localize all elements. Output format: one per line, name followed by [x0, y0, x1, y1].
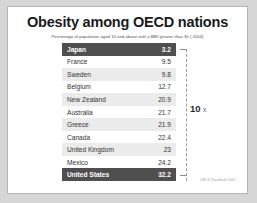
country-value: 21.7	[158, 109, 171, 116]
country-value: 9.8	[162, 71, 171, 78]
table-row: Japan 3.2	[62, 43, 176, 56]
table-row: France 9.5	[62, 56, 176, 69]
table-row: Belgium 12.7	[62, 81, 176, 94]
table-row: Canada 22.4	[62, 131, 176, 144]
country-value: 21.9	[158, 121, 171, 128]
country-label: France	[67, 58, 88, 65]
country-value: 32.2	[158, 171, 171, 178]
table-row: Mexico 24.2	[62, 156, 176, 169]
country-label: Belgium	[67, 83, 91, 90]
country-value: 12.7	[158, 83, 171, 90]
ranking-table: Japan 3.2 France 9.5 Sweden 9.8 Belgium …	[62, 43, 176, 181]
country-label: Sweden	[67, 71, 91, 78]
table-row: Australia 21.7	[62, 106, 176, 119]
country-value: 3.2	[162, 46, 171, 53]
country-value: 22.4	[158, 134, 171, 141]
country-label: Greece	[67, 121, 89, 128]
country-value: 9.5	[162, 58, 171, 65]
chart-subtitle: Percentage of population aged 15 and abo…	[8, 34, 247, 39]
country-label: Australia	[67, 109, 93, 116]
country-value: 20.9	[158, 96, 171, 103]
ratio-unit: x	[203, 106, 206, 113]
table-row: United States 32.2	[62, 168, 176, 181]
table-row: United Kingdom 23	[62, 143, 176, 156]
country-label: United Kingdom	[67, 146, 114, 153]
country-label: United States	[67, 171, 109, 178]
chart-header: Obesity among OECD nations Percentage of…	[8, 7, 247, 39]
country-label: Japan	[67, 46, 86, 53]
country-label: Canada	[67, 134, 90, 141]
ratio-bracket-line	[186, 49, 187, 181]
ratio-number: 10	[190, 103, 201, 114]
ratio-annotation: 10 x	[190, 103, 206, 114]
slide-frame: Obesity among OECD nations Percentage of…	[7, 6, 248, 194]
country-value: 24.2	[158, 159, 171, 166]
country-label: New Zealand	[67, 96, 106, 103]
table-row: New Zealand 20.9	[62, 93, 176, 106]
country-value: 23	[164, 146, 171, 153]
plot-area: Japan 3.2 France 9.5 Sweden 9.8 Belgium …	[8, 43, 247, 193]
source-note: OECD Factbook 2007	[200, 178, 236, 182]
table-row: Sweden 9.8	[62, 68, 176, 81]
page-title: Obesity among OECD nations	[8, 15, 247, 31]
country-label: Mexico	[67, 159, 88, 166]
table-row: Greece 21.9	[62, 118, 176, 131]
